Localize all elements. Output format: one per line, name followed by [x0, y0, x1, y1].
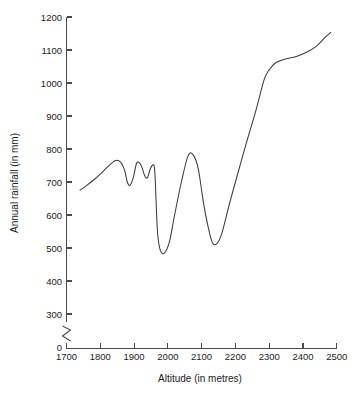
x-tick-label-1700: 1700	[56, 351, 77, 362]
x-tick-label-2000: 2000	[157, 351, 178, 362]
y-tick-label-800: 800	[46, 144, 62, 155]
series-group	[80, 33, 331, 254]
x-tick-label-2100: 2100	[191, 351, 212, 362]
y-tick-label-300: 300	[46, 309, 62, 320]
y-tick-label-400: 400	[46, 276, 62, 287]
y-tick-label-1000: 1000	[41, 78, 62, 89]
x-tick-label-2300: 2300	[259, 351, 280, 362]
x-tick-label-1800: 1800	[90, 351, 111, 362]
y-axis-tick-labels: 1200 1100 1000 900 800 700 600 500 400 3…	[41, 12, 62, 354]
y-tick-label-600: 600	[46, 210, 62, 221]
x-axis-ticks	[67, 343, 337, 349]
x-tick-label-1900: 1900	[124, 351, 145, 362]
x-axis-tick-labels: 1700 1800 1900 2000 2100 2200 2300 2400 …	[56, 351, 347, 362]
y-tick-label-700: 700	[46, 177, 62, 188]
y-axis-ticks	[67, 17, 73, 314]
rainfall-curve	[80, 33, 331, 254]
y-tick-label-1200: 1200	[41, 12, 62, 23]
y-tick-label-500: 500	[46, 243, 62, 254]
chart-canvas: 1200 1100 1000 900 800 700 600 500 400 3…	[0, 0, 356, 400]
x-tick-label-2400: 2400	[292, 351, 313, 362]
y-axis-break-symbol	[63, 326, 71, 341]
y-tick-label-1100: 1100	[42, 45, 62, 56]
y-axis-title: Annual rainfall (in mm)	[9, 133, 20, 233]
x-tick-label-2500: 2500	[326, 351, 347, 362]
x-axis: 1700 1800 1900 2000 2100 2200 2300 2400 …	[56, 343, 347, 362]
rainfall-altitude-chart: 1200 1100 1000 900 800 700 600 500 400 3…	[0, 0, 356, 400]
y-axis: 1200 1100 1000 900 800 700 600 500 400 3…	[41, 12, 72, 354]
x-axis-title: Altitude (in metres)	[158, 373, 242, 384]
x-tick-label-2200: 2200	[225, 351, 246, 362]
y-tick-label-900: 900	[46, 111, 62, 122]
